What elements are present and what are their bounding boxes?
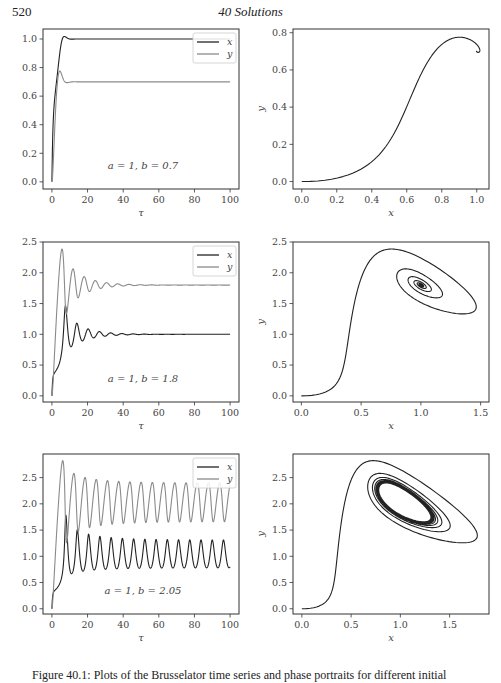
x-tick-label: 80	[188, 407, 200, 418]
y-tick-label: 2.5	[22, 472, 37, 483]
x-axis-label: x	[388, 207, 394, 218]
y-tick-label: 0.0	[272, 176, 287, 187]
y-tick-label: 0.0	[272, 603, 287, 614]
y-tick-label: 0.8	[272, 27, 287, 38]
y-tick-label: 0.2	[22, 148, 37, 159]
plot-pp1: 0.00.20.40.60.81.00.00.20.40.60.8xy	[250, 12, 500, 217]
x-tick-label: 1.5	[473, 407, 488, 418]
x-tick-label: 0.5	[354, 407, 369, 418]
y-tick-label: 0.0	[22, 176, 37, 187]
x-tick-label: 40	[117, 619, 129, 630]
x-tick-label: 0.6	[399, 194, 414, 205]
x-tick-label: 100	[221, 619, 239, 630]
x-tick-label: 0.4	[364, 194, 379, 205]
y-tick-label: 1.0	[22, 551, 37, 562]
y-axis-label: y	[255, 319, 266, 326]
y-tick-label: 1.0	[272, 551, 287, 562]
x-tick-label: 20	[81, 407, 93, 418]
y-tick-label: 1.0	[272, 329, 287, 340]
x-tick-label: 0.5	[344, 619, 359, 630]
x-tick-label: 20	[81, 194, 93, 205]
y-tick-label: 2.0	[272, 498, 287, 509]
legend: xy	[193, 246, 236, 276]
series-trajectory	[301, 249, 476, 396]
x-tick-label: 40	[117, 407, 129, 418]
y-tick-label: 2.5	[272, 472, 287, 483]
y-tick-label: 0.5	[272, 577, 287, 588]
x-tick-label: 0.2	[329, 194, 344, 205]
x-tick-label: 0	[49, 407, 55, 418]
y-tick-label: 2.0	[22, 498, 37, 509]
legend-entry-y: y	[226, 48, 233, 59]
y-axis-label: y	[255, 106, 266, 113]
y-tick-label: 0.4	[272, 101, 287, 112]
x-tick-label: 100	[221, 407, 239, 418]
axes-frame	[293, 454, 489, 614]
legend-entry-x: x	[227, 249, 233, 260]
x-tick-label: 0.8	[434, 194, 449, 205]
plot-pp3: 0.00.51.01.50.00.51.01.52.02.5xy	[250, 437, 500, 642]
y-tick-label: 2.0	[272, 267, 287, 278]
x-tick-label: 1.0	[393, 619, 408, 630]
plot-ts3: 0204060801000.00.51.01.52.02.5τa = 1, b …	[0, 437, 250, 642]
y-tick-label: 1.5	[22, 298, 37, 309]
parameter-annotation: a = 1, b = 1.8	[108, 373, 178, 384]
plot-area	[302, 37, 480, 181]
legend: xy	[193, 33, 236, 63]
y-tick-label: 0.2	[272, 139, 287, 150]
y-tick-label: 0.0	[22, 603, 37, 614]
series-trajectory	[302, 461, 478, 609]
axes-frame	[293, 242, 489, 402]
plot-ts2: 0204060801000.00.51.01.52.02.5τa = 1, b …	[0, 225, 250, 430]
x-tick-label: 0.0	[294, 194, 309, 205]
y-tick-label: 0.8	[22, 62, 37, 73]
legend-entry-x: x	[227, 36, 233, 47]
x-tick-label: 80	[188, 194, 200, 205]
y-tick-label: 1.5	[272, 524, 287, 535]
y-axis-label: y	[255, 531, 266, 538]
legend-entry-y: y	[226, 261, 233, 272]
plot-ts1: 0204060801000.00.20.40.60.81.0τa = 1, b …	[0, 12, 250, 217]
x-axis-label: τ	[138, 420, 144, 431]
series-trajectory	[302, 37, 480, 181]
parameter-annotation: a = 1, b = 2.05	[105, 585, 182, 596]
x-tick-label: 60	[153, 194, 165, 205]
legend-entry-y: y	[226, 473, 233, 484]
x-tick-label: 0.0	[294, 407, 309, 418]
y-tick-label: 0.5	[22, 359, 37, 370]
y-tick-label: 0.4	[22, 119, 37, 130]
plot-area	[302, 461, 478, 609]
axes-frame	[293, 29, 489, 189]
plot-area	[301, 249, 476, 396]
x-tick-label: 60	[153, 619, 165, 630]
parameter-annotation: a = 1, b = 0.7	[108, 160, 179, 171]
y-tick-label: 0.0	[272, 390, 287, 401]
plot-pp2: 0.00.51.01.50.00.51.01.52.02.5xy	[250, 225, 500, 430]
x-axis-label: τ	[138, 632, 144, 643]
y-tick-label: 1.5	[22, 524, 37, 535]
legend: xy	[193, 458, 236, 488]
x-axis-label: τ	[138, 207, 144, 218]
y-tick-label: 0.5	[22, 577, 37, 588]
y-tick-label: 1.0	[22, 33, 37, 44]
x-tick-label: 1.0	[413, 407, 428, 418]
y-tick-label: 1.5	[272, 298, 287, 309]
x-tick-label: 1.5	[442, 619, 457, 630]
y-tick-label: 2.5	[22, 236, 37, 247]
x-tick-label: 0.0	[294, 619, 309, 630]
x-tick-label: 80	[188, 619, 200, 630]
figure-caption: Figure 40.1: Plots of the Brusselator ti…	[32, 668, 492, 683]
x-tick-label: 100	[221, 194, 239, 205]
y-tick-label: 1.0	[22, 329, 37, 340]
y-tick-label: 2.5	[272, 236, 287, 247]
x-axis-label: x	[388, 632, 394, 643]
x-axis-label: x	[388, 420, 394, 431]
x-tick-label: 1.0	[469, 194, 484, 205]
x-tick-label: 60	[153, 407, 165, 418]
y-tick-label: 0.6	[272, 64, 287, 75]
y-tick-label: 0.5	[272, 359, 287, 370]
x-tick-label: 0	[49, 619, 55, 630]
y-tick-label: 0.6	[22, 90, 37, 101]
y-tick-label: 0.0	[22, 390, 37, 401]
legend-entry-x: x	[227, 461, 233, 472]
